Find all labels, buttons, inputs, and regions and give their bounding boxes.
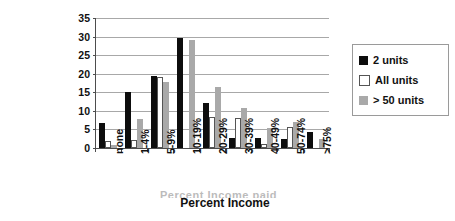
legend-item-over-50-units: > 50 units bbox=[359, 90, 443, 110]
x-axis-tick-label: 10-19% bbox=[191, 118, 203, 154]
y-axis-tick-label: 35 bbox=[60, 12, 90, 24]
x-axis-tick-label: 1-4% bbox=[139, 129, 151, 154]
plot-area bbox=[95, 18, 329, 148]
y-axis-tick-label: 10 bbox=[60, 105, 90, 117]
y-axis-tick-label: 25 bbox=[60, 49, 90, 61]
x-axis-tick-label: 50-74% bbox=[295, 118, 307, 154]
y-axis-tick-label: 0 bbox=[60, 142, 90, 154]
bar-chart-figure: As Percent of Total Respondents 05101520… bbox=[0, 0, 455, 221]
bar bbox=[177, 38, 183, 148]
bar-groups bbox=[95, 18, 329, 148]
legend-swatch-all-units bbox=[359, 75, 370, 86]
legend: 2 units All units > 50 units bbox=[352, 44, 449, 116]
x-axis-tick-mark bbox=[95, 148, 96, 152]
y-axis-tick-label: 15 bbox=[60, 86, 90, 98]
legend-label-2-units: 2 units bbox=[373, 54, 408, 66]
y-axis-tick-label: 20 bbox=[60, 68, 90, 80]
legend-item-2-units: 2 units bbox=[359, 50, 443, 70]
y-axis-tick-label: 30 bbox=[60, 31, 90, 43]
x-axis-label: Percent Income bbox=[120, 196, 330, 210]
x-axis-line bbox=[95, 148, 329, 149]
legend-swatch-over-50-units bbox=[359, 96, 368, 105]
legend-label-all-units: All units bbox=[375, 74, 418, 86]
legend-label-over-50-units: > 50 units bbox=[373, 94, 424, 106]
x-axis-tick-label: none bbox=[113, 129, 125, 154]
x-axis-tick-label: 40-49% bbox=[269, 118, 281, 154]
x-axis-tick-label: 5-9% bbox=[165, 129, 177, 154]
legend-swatch-2-units bbox=[359, 56, 368, 65]
x-axis-tick-label: 30-39% bbox=[243, 118, 255, 154]
y-axis-tick-label: 5 bbox=[60, 123, 90, 135]
x-axis-tick-label: 20-29% bbox=[217, 118, 229, 154]
bar bbox=[307, 132, 313, 148]
x-axis-tick-label: >75% bbox=[321, 127, 333, 154]
legend-item-all-units: All units bbox=[359, 70, 443, 90]
